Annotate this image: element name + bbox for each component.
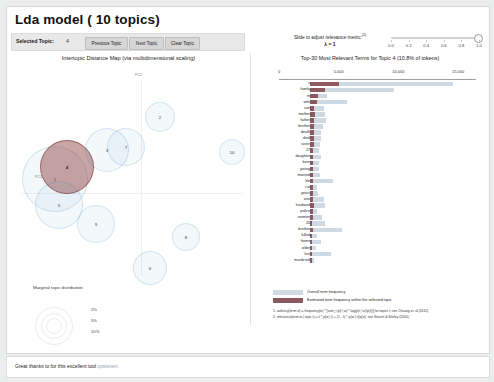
topic-bubble-8[interactable]: 8 [172, 223, 200, 251]
topic-frequency-bar [310, 82, 339, 87]
topic-frequency-bar [310, 155, 313, 160]
legend-footnote: 2. relevance(term w | topic t) = λ * p(w… [273, 315, 409, 319]
legend-swatch [273, 298, 303, 304]
term-label[interactable]: young [300, 167, 310, 171]
term-label[interactable]: m [307, 94, 310, 98]
term-label[interactable]: life [305, 179, 310, 183]
slider-tick-label: 1.0 [472, 43, 486, 48]
term-label[interactable]: daughter [295, 154, 310, 158]
term-label[interactable]: husband [296, 203, 310, 207]
topic-frequency-bar [310, 94, 318, 99]
topic-bubble-label: 9 [78, 206, 114, 242]
footer-text: Great thanks to for this excellent tool … [15, 363, 118, 369]
overall-frequency-bar [310, 179, 333, 184]
term-label[interactable]: family [300, 87, 310, 91]
slider-tick-mark [426, 40, 427, 42]
term-label[interactable]: married [298, 173, 311, 177]
slider-tick-mark [444, 40, 445, 42]
topic-bubble-label: 6 [134, 252, 166, 284]
topic-bubble-5[interactable]: 5 [35, 181, 83, 229]
topic-frequency-bar [310, 221, 312, 226]
slider-tick-label: 0.0 [384, 43, 398, 48]
term-label[interactable]: police [300, 209, 310, 213]
term-label[interactable]: years [301, 191, 310, 195]
term-row[interactable]: murdered [251, 257, 489, 263]
footer-link[interactable]: cpsievert [98, 363, 118, 369]
topic-frequency-bar [310, 240, 312, 245]
topic-frequency-bar [310, 142, 314, 147]
topic-control-bar: Selected Topic: 4 Previous Topic Next To… [11, 33, 245, 51]
selected-topic-value[interactable]: 4 [66, 38, 69, 44]
marginal-tick-label: 5% [91, 318, 97, 323]
slider-tick-label: 0.4 [419, 43, 433, 48]
relevance-slider[interactable]: Slide to adjust relevance metric:(2) λ =… [269, 31, 485, 53]
slider-tick-mark [409, 40, 410, 42]
term-label[interactable]: sister [301, 142, 310, 146]
barchart-x-axis [279, 79, 476, 80]
term-label[interactable]: s [308, 81, 310, 85]
topic-bubble-label: 8 [173, 224, 199, 250]
previous-topic-button[interactable]: Previous Topic [85, 37, 128, 50]
clear-topic-button[interactable]: Clear Topic [165, 37, 200, 50]
topic-frequency-bar [310, 185, 313, 190]
topic-bubble-9[interactable]: 9 [77, 205, 115, 243]
topic-frequency-bar [310, 118, 314, 123]
slider-tick-label: 0.6 [437, 43, 451, 48]
legend-footnote: 1. saliency(term w) = frequency(w) * [su… [273, 309, 428, 313]
topic-frequency-bar [310, 179, 313, 184]
topic-frequency-bar [310, 191, 313, 196]
topic-frequency-bar [310, 106, 314, 111]
term-label[interactable]: women [298, 215, 310, 219]
legend-label: Estimated term frequency within the sele… [307, 298, 392, 302]
slider-tick-mark [479, 40, 480, 42]
next-topic-button[interactable]: Next Topic [129, 37, 164, 50]
term-label[interactable]: 27 [306, 148, 310, 152]
term-label[interactable]: death [301, 130, 310, 134]
term-label[interactable]: killed [302, 233, 310, 237]
legend-swatch [273, 290, 303, 296]
term-label[interactable]: older [302, 246, 310, 250]
topic-frequency-bar [310, 234, 312, 239]
slider-track[interactable] [391, 37, 479, 39]
topic-frequency-bar [310, 124, 314, 129]
topic-bubble-2[interactable]: 2 [145, 102, 175, 132]
footer-message: Great thanks to for this excellent tool [15, 363, 98, 369]
page-title: Lda model ( 10 topics) [15, 12, 160, 27]
term-label[interactable]: born [303, 160, 310, 164]
term-label[interactable]: one [304, 197, 310, 201]
term-label[interactable]: live [304, 252, 310, 256]
marginal-tick-label: 10% [91, 329, 99, 334]
term-label[interactable]: wife [303, 100, 310, 104]
mds-title: Intertopic Distance Map (via multidimens… [7, 55, 250, 61]
mds-axis-y-label: PC2 [135, 73, 142, 77]
term-label[interactable]: brother [298, 227, 310, 231]
term-label[interactable]: died [303, 136, 310, 140]
topic-bubble-6[interactable]: 6 [133, 251, 167, 285]
marginal-distribution-title: Marginal topic distribution [33, 285, 83, 290]
term-label[interactable]: 20 [306, 221, 310, 225]
term-label[interactable]: father [301, 118, 310, 122]
topic-bubble-7[interactable]: 7 [107, 128, 145, 166]
relevance-footnote-marker: (2) [362, 33, 366, 37]
topic-frequency-bar [310, 252, 312, 257]
topic-frequency-bar [310, 173, 313, 178]
marginal-tick-label: 2% [91, 307, 97, 312]
term-label[interactable]: home [301, 239, 310, 243]
x-tick-label: 5,000 [327, 69, 351, 74]
topic-frequency-bar [310, 258, 312, 263]
relevance-slider-text: Slide to adjust relevance metric: [294, 35, 362, 40]
term-label[interactable]: cut [305, 185, 310, 189]
term-label[interactable]: son [304, 106, 310, 110]
topic-frequency-bar [310, 136, 314, 141]
term-label[interactable]: mother [299, 112, 310, 116]
topic-frequency-bar [310, 148, 313, 153]
overall-frequency-bar [310, 228, 342, 233]
topic-frequency-bar [310, 228, 313, 233]
topic-frequency-bar [310, 130, 314, 135]
term-label[interactable]: murdered [294, 258, 310, 262]
term-label[interactable]: brother [298, 124, 310, 128]
topic-frequency-bar [310, 88, 325, 93]
selected-topic-label: Selected Topic: [16, 38, 54, 44]
topic-bubble-10[interactable]: 10 [219, 139, 245, 165]
footer-bar: Great thanks to for this excellent tool … [6, 356, 490, 378]
